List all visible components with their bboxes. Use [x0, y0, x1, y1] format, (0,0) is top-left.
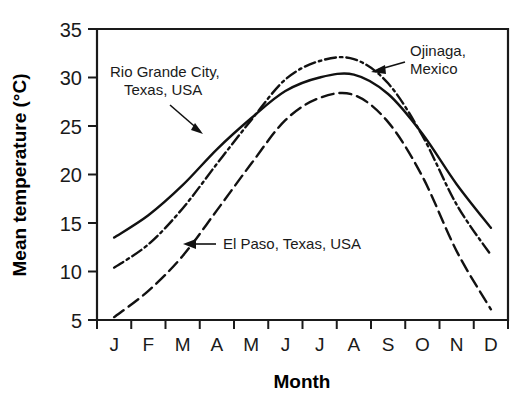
x-tick-label-1: F	[143, 334, 155, 355]
x-tick-label-5: J	[281, 334, 291, 355]
chart-page: 35 30 25 20 15 10 5 JFMAMJJASOND Rio Gra…	[0, 0, 531, 401]
ojinaga-annotation-line1: Ojinaga,	[410, 42, 466, 59]
x-axis-title: Month	[274, 371, 331, 392]
x-tick-label-9: O	[415, 334, 430, 355]
series-el-paso	[114, 93, 491, 317]
x-tick-label-8: S	[382, 334, 395, 355]
y-tick-label-20: 20	[60, 164, 82, 186]
ojinaga-annotation-line2: Mexico	[410, 60, 458, 77]
y-axis-title: Mean temperature (°C)	[9, 74, 30, 277]
ojinaga-annotation: Ojinaga, Mexico	[371, 42, 466, 77]
x-tick-label-7: A	[348, 334, 361, 355]
y-axis-ticks	[88, 29, 97, 320]
rio-grande-annotation-line2: Texas, USA	[124, 81, 202, 98]
y-tick-label-25: 25	[60, 116, 82, 138]
x-tick-label-10: N	[450, 334, 464, 355]
x-tick-label-11: D	[484, 334, 498, 355]
rio-grande-annotation: Rio Grande City, Texas, USA	[110, 63, 220, 134]
temperature-line-chart: 35 30 25 20 15 10 5 JFMAMJJASOND Rio Gra…	[0, 0, 531, 401]
rio-grande-annotation-line1: Rio Grande City,	[110, 63, 220, 80]
y-tick-label-5: 5	[71, 310, 82, 332]
el-paso-annotation-line1: El Paso, Texas, USA	[223, 235, 361, 252]
x-tick-label-2: M	[175, 334, 191, 355]
y-tick-label-10: 10	[60, 261, 82, 283]
y-axis-tick-labels: 35 30 25 20 15 10 5	[60, 19, 82, 332]
y-tick-label-35: 35	[60, 19, 82, 41]
x-tick-label-4: M	[243, 334, 259, 355]
x-tick-label-0: J	[109, 334, 119, 355]
series-rio-grande-city	[114, 73, 491, 237]
x-tick-label-3: A	[211, 334, 224, 355]
x-axis-tick-labels: JFMAMJJASOND	[109, 334, 497, 355]
y-tick-label-30: 30	[60, 67, 82, 89]
y-tick-label-15: 15	[60, 213, 82, 235]
el-paso-annotation: El Paso, Texas, USA	[183, 235, 361, 252]
x-tick-label-6: J	[315, 334, 325, 355]
x-axis-ticks	[97, 320, 508, 329]
